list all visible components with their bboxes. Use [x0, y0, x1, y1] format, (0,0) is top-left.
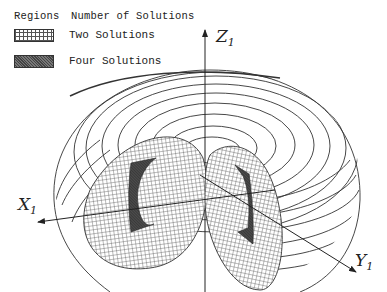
x-subscript: 1 — [30, 204, 37, 217]
right-cross-section — [205, 146, 282, 290]
z-axis-label: Z1 — [216, 26, 235, 49]
y-subscript: 1 — [366, 260, 373, 273]
left-cross-section — [84, 137, 207, 269]
torus-workspace-diagram — [0, 0, 387, 292]
x-axis-label: X1 — [18, 194, 37, 217]
z-subscript: 1 — [228, 36, 235, 49]
z-letter: Z — [216, 26, 228, 46]
y-letter: Y — [355, 250, 366, 270]
y-axis-label: Y1 — [355, 250, 373, 273]
x-letter: X — [18, 194, 30, 214]
